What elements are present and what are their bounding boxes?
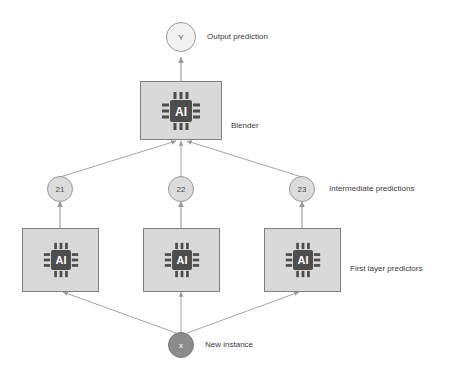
- intermediate-prediction-label-3: 23: [298, 185, 307, 194]
- edge-pred3-to-blender: [187, 141, 302, 177]
- intermediate-prediction-node-3: 23: [289, 176, 315, 202]
- blender-box: AI: [140, 81, 222, 140]
- edge-instance-to-box1: [63, 292, 176, 333]
- svg-text:AI: AI: [176, 254, 187, 266]
- intermediate-prediction-node-1: 21: [47, 176, 73, 202]
- stacking-ensemble-diagram: Y Output prediction: [0, 0, 451, 376]
- blender-caption: Blender: [231, 122, 259, 130]
- ai-chip-icon: AI: [42, 241, 80, 279]
- svg-text:AI: AI: [55, 254, 66, 266]
- intermediate-prediction-node-2: 22: [168, 176, 194, 202]
- intermediate-prediction-label-1: 21: [56, 185, 65, 194]
- first-layer-predictors-caption: First layer predictors: [350, 265, 422, 273]
- svg-text:AI: AI: [175, 104, 187, 118]
- new-instance-caption: New instance: [205, 341, 253, 349]
- intermediate-predictions-caption: Intermediate predictions: [329, 185, 414, 193]
- output-prediction-caption: Output prediction: [207, 33, 268, 41]
- svg-text:AI: AI: [297, 254, 308, 266]
- new-instance-label: x: [179, 341, 183, 350]
- first-layer-predictor-box-2: AI: [143, 228, 220, 292]
- new-instance-node: x: [168, 332, 194, 358]
- ai-chip-icon: AI: [284, 241, 322, 279]
- output-prediction-node: Y: [166, 22, 196, 52]
- output-prediction-label: Y: [178, 33, 183, 42]
- intermediate-prediction-label-2: 22: [177, 185, 186, 194]
- edge-instance-to-box3: [187, 292, 299, 333]
- first-layer-predictor-box-3: AI: [264, 228, 341, 292]
- ai-chip-icon: AI: [160, 90, 202, 132]
- edge-pred1-to-blender: [60, 141, 176, 177]
- ai-chip-icon: AI: [163, 241, 201, 279]
- first-layer-predictor-box-1: AI: [22, 228, 99, 292]
